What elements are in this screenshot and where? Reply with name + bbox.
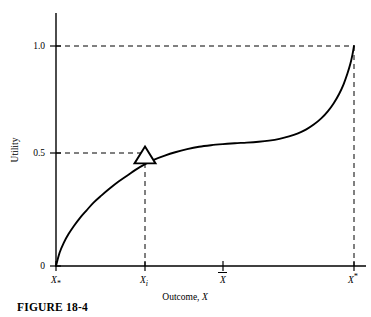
y-tick-label-1-0: 1.0 <box>33 41 45 51</box>
y-tick-label-0-5: 0.5 <box>33 148 45 158</box>
x-axis-title: Outcome, X <box>162 292 209 302</box>
x-tick-label-x-bar: X <box>219 275 227 285</box>
x-tick-label-x-i-subscript: i <box>146 279 148 288</box>
utility-chart: 1.0 0.5 0 X* Xi X X* Outcome, X Utility <box>0 0 371 317</box>
figure-caption: FIGURE 18-4 <box>17 298 88 317</box>
y-tick-label-0: 0 <box>40 261 45 271</box>
y-axis-title: Utility <box>10 137 20 162</box>
figure-container: 1.0 0.5 0 X* Xi X X* Outcome, X Utility … <box>0 0 371 317</box>
x-tick-label-x-min-subscript: * <box>57 279 61 288</box>
x-tick-label-x-max-superscript: * <box>354 271 358 281</box>
x-axis-title-text: Outcome, <box>162 292 202 302</box>
